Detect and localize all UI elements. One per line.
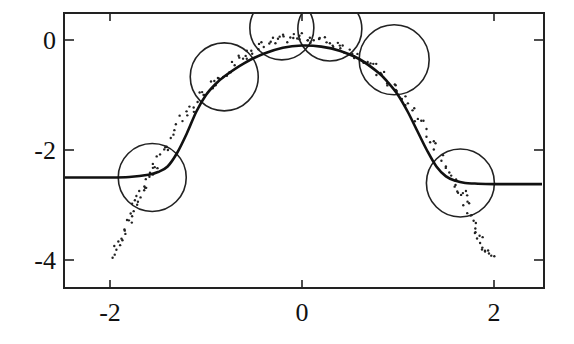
neighborhood-circles: [118, 0, 494, 217]
data-point: [375, 63, 377, 65]
data-point: [244, 55, 246, 57]
data-point: [341, 44, 343, 46]
data-point: [114, 253, 116, 255]
x-tick-label: 0: [296, 298, 309, 327]
data-point: [136, 203, 138, 205]
data-point: [263, 46, 265, 48]
data-point: [111, 257, 113, 259]
y-tick-label: -4: [34, 246, 56, 275]
data-point: [163, 148, 165, 150]
data-point: [407, 102, 409, 104]
data-point: [198, 91, 200, 93]
data-point: [242, 57, 244, 59]
data-point: [425, 136, 427, 138]
data-point: [339, 47, 341, 49]
data-point: [260, 41, 262, 43]
data-point: [159, 153, 161, 155]
data-point: [117, 240, 119, 242]
data-point: [274, 42, 276, 44]
data-point: [167, 149, 169, 151]
data-point: [293, 33, 295, 35]
data-point: [309, 37, 311, 39]
data-point: [178, 114, 180, 116]
data-point: [196, 101, 198, 103]
data-point: [172, 133, 174, 135]
data-point: [404, 95, 406, 97]
data-points: [111, 32, 495, 259]
data-point: [173, 129, 175, 131]
data-point: [448, 171, 450, 173]
data-point: [175, 123, 177, 125]
data-point: [132, 210, 134, 212]
data-point: [156, 167, 158, 169]
data-point: [478, 234, 480, 236]
data-point: [286, 41, 288, 43]
data-point: [113, 245, 115, 247]
data-point: [450, 174, 452, 176]
data-point: [487, 249, 489, 251]
data-point: [313, 39, 315, 41]
data-point: [250, 50, 252, 52]
data-point: [433, 140, 435, 142]
data-point: [466, 200, 468, 202]
data-point: [445, 165, 447, 167]
data-point: [251, 53, 253, 55]
data-point: [462, 192, 464, 194]
data-point: [289, 36, 291, 38]
data-point: [277, 38, 279, 40]
data-point: [475, 222, 477, 224]
data-point: [383, 71, 385, 73]
data-point: [258, 43, 260, 45]
data-point: [466, 212, 468, 214]
data-point: [440, 159, 442, 161]
data-point: [356, 53, 358, 55]
data-point: [329, 42, 331, 44]
data-point: [493, 255, 495, 257]
data-point: [457, 192, 459, 194]
data-point: [126, 219, 128, 221]
data-point: [139, 196, 141, 198]
data-point: [433, 148, 435, 150]
data-point: [137, 201, 139, 203]
data-point: [466, 194, 468, 196]
data-point: [210, 80, 212, 82]
data-point: [481, 236, 483, 238]
data-point: [296, 37, 298, 39]
data-point: [413, 107, 415, 109]
data-point: [233, 64, 235, 66]
data-point: [124, 233, 126, 235]
data-point: [152, 163, 154, 165]
data-point: [465, 190, 467, 192]
data-point: [143, 189, 145, 191]
data-point: [453, 185, 455, 187]
data-point: [181, 120, 183, 122]
data-point: [145, 187, 147, 189]
data-point: [115, 249, 117, 251]
data-point: [154, 166, 156, 168]
data-point: [119, 244, 121, 246]
data-point: [292, 37, 294, 39]
data-point: [246, 58, 248, 60]
data-point: [129, 212, 131, 214]
y-tick-label: -2: [34, 136, 56, 165]
data-point: [188, 105, 190, 107]
data-point: [479, 242, 481, 244]
data-point: [394, 83, 396, 85]
data-point: [123, 228, 125, 230]
data-point: [120, 237, 122, 239]
data-point: [213, 80, 215, 82]
data-point: [301, 32, 303, 34]
data-point: [145, 178, 147, 180]
data-point: [272, 37, 274, 39]
data-point: [231, 61, 233, 63]
data-point: [474, 231, 476, 233]
data-point: [369, 62, 371, 64]
data-point: [484, 249, 486, 251]
data-point: [476, 237, 478, 239]
data-point: [134, 199, 136, 201]
chart: -202 0-2-4: [0, 0, 574, 344]
data-point: [349, 48, 351, 50]
data-point: [375, 74, 377, 76]
data-point: [135, 195, 137, 197]
data-point: [307, 39, 309, 41]
